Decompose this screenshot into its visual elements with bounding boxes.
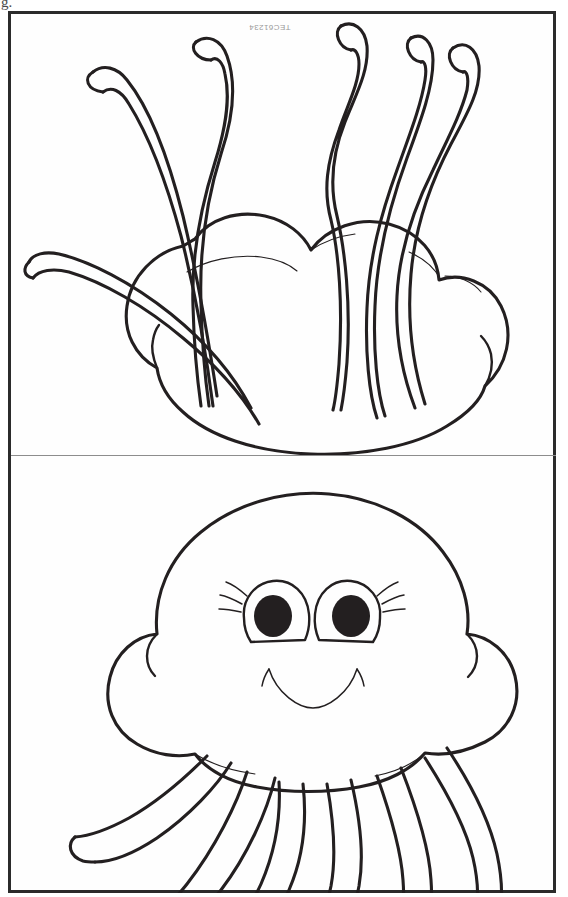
bell-notch-right-front [467,634,477,677]
coloring-page: g. [0,0,568,897]
scan-edge-artifact: g. [1,0,12,10]
mouth-flick-left [262,669,269,686]
left-eye [219,581,309,642]
top-panel-jellyfish-back [11,14,556,455]
left-pupil [254,595,292,637]
bottom-panel-jellyfish-front [11,456,556,893]
bell-notch-right [481,336,492,386]
tentacle-front-4 [305,780,361,893]
tentacle-front-5 [377,768,432,893]
tentacle-front-6 [425,748,502,893]
mouth-smile [269,669,357,708]
tentacle-front-1-tip [70,837,95,862]
tentacle-4 [327,24,367,410]
jellyfish-bell-front [108,493,517,791]
tentacle-4-tip [337,26,351,50]
right-eyelash-3 [383,609,405,612]
tentacle-1 [29,253,259,424]
bell-notch-left-front [147,634,157,676]
left-eyelash-3 [219,609,241,612]
tentacle-front-1 [75,756,231,862]
tentacle-6 [397,45,479,408]
jellyfish-front-drawing [11,456,556,893]
mouth-flick-right [357,669,364,686]
tentacle-5-tip [407,38,421,62]
bell-crease-left [187,256,297,272]
tentacle-1-tip [25,262,33,278]
jellyfish-back-drawing [11,14,556,455]
right-eye [315,581,405,642]
tentacle-6-tip [449,48,463,72]
tentacle-3-tip [193,42,211,60]
right-eyelash-2 [382,595,404,604]
tentacle-2-tip [88,72,103,92]
scan-watermark: TEC61234 [249,23,290,32]
right-pupil [332,595,370,637]
right-eyelash-1 [377,582,398,596]
left-eyelash-1 [226,582,247,596]
bell-notch-left [152,325,159,368]
left-eyelash-2 [220,595,242,604]
